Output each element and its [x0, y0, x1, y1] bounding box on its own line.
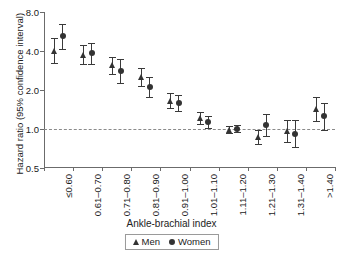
x-category-label: 1.01–1.10 — [208, 174, 219, 216]
confidence-interval-cap — [197, 124, 204, 125]
x-category-label: 0.61–0.70 — [92, 174, 103, 216]
marker-triangle — [138, 74, 144, 80]
confidence-interval-cap — [292, 147, 299, 148]
confidence-interval-cap — [109, 74, 116, 75]
confidence-interval-cap — [138, 68, 145, 69]
x-category-label: 0.81–0.90 — [150, 174, 161, 216]
legend-item-men: Men — [132, 236, 159, 247]
confidence-interval-cap — [292, 120, 299, 121]
confidence-interval-cap — [80, 64, 87, 65]
plot-area: 0.51.02.04.08.0 ≤0.600.61–0.700.71–0.800… — [44, 12, 335, 168]
confidence-interval-cap — [313, 97, 320, 98]
confidence-interval-cap — [88, 43, 95, 44]
y-tick — [40, 12, 44, 13]
confidence-interval-cap — [255, 130, 262, 131]
x-axis-label: Ankle-brachial index — [0, 218, 343, 229]
x-tick — [160, 167, 161, 171]
confidence-interval-cap — [197, 112, 204, 113]
y-axis-line — [44, 12, 45, 168]
confidence-interval-cap — [321, 103, 328, 104]
confidence-interval-cap — [59, 49, 66, 50]
confidence-interval-cap — [146, 77, 153, 78]
confidence-interval-cap — [117, 59, 124, 60]
y-tick — [40, 51, 44, 52]
marker-circle — [292, 131, 298, 137]
marker-circle — [118, 68, 124, 74]
marker-triangle — [167, 98, 173, 104]
x-category-label: 0.71–0.80 — [121, 174, 132, 216]
marker-triangle — [109, 62, 115, 68]
confidence-interval-cap — [109, 57, 116, 58]
x-category-label: 1.11–1.20 — [237, 174, 248, 216]
confidence-interval-cap — [175, 95, 182, 96]
marker-triangle — [255, 134, 261, 140]
x-tick — [73, 167, 74, 171]
marker-circle — [205, 119, 211, 125]
confidence-interval-cap — [167, 93, 174, 94]
marker-triangle — [284, 128, 290, 134]
marker-circle — [234, 126, 240, 132]
y-tick-label: 8.0 — [26, 7, 39, 18]
confidence-interval-cap — [263, 114, 270, 115]
marker-triangle — [197, 115, 203, 121]
x-tick — [44, 167, 45, 171]
confidence-interval-cap — [205, 116, 212, 117]
confidence-interval-cap — [117, 83, 124, 84]
marker-triangle — [226, 127, 232, 133]
x-tick — [335, 167, 336, 171]
marker-circle — [89, 50, 95, 56]
confidence-interval-cap — [80, 45, 87, 46]
legend: Men Women — [124, 234, 218, 250]
marker-triangle — [51, 48, 57, 54]
y-tick-label: 1.0 — [26, 124, 39, 135]
confidence-interval-cap — [138, 86, 145, 87]
confidence-interval-cap — [59, 24, 66, 25]
x-tick — [306, 167, 307, 171]
y-tick — [40, 90, 44, 91]
legend-item-women: Women — [169, 236, 211, 247]
confidence-interval-cap — [284, 120, 291, 121]
marker-circle — [263, 122, 269, 128]
confidence-interval-cap — [284, 142, 291, 143]
confidence-interval-cap — [321, 130, 328, 131]
x-tick — [277, 167, 278, 171]
marker-circle — [176, 100, 182, 106]
marker-circle — [147, 84, 153, 90]
marker-triangle — [313, 106, 319, 112]
x-tick — [248, 167, 249, 171]
marker-triangle — [80, 52, 86, 58]
y-tick-label: 0.5 — [26, 163, 39, 174]
confidence-interval-cap — [205, 128, 212, 129]
legend-label-women: Women — [178, 236, 211, 247]
y-tick-label: 4.0 — [26, 46, 39, 57]
circle-marker-icon — [169, 239, 175, 245]
x-category-label: 1.21–1.30 — [266, 174, 277, 216]
confidence-interval-cap — [146, 97, 153, 98]
confidence-interval-cap — [51, 38, 58, 39]
x-tick — [102, 167, 103, 171]
confidence-interval-cap — [167, 108, 174, 109]
confidence-interval-cap — [175, 111, 182, 112]
marker-circle — [321, 113, 327, 119]
confidence-interval-cap — [51, 63, 58, 64]
y-axis-label: Hazard ratio (95% confidence interval) — [14, 15, 25, 175]
confidence-interval-cap — [226, 133, 233, 134]
triangle-marker-icon — [132, 239, 138, 245]
x-tick — [131, 167, 132, 171]
x-category-label: >1.40 — [324, 174, 335, 198]
confidence-interval-cap — [255, 144, 262, 145]
confidence-interval-cap — [234, 132, 241, 133]
confidence-interval-cap — [313, 121, 320, 122]
confidence-interval-cap — [263, 136, 270, 137]
y-tick-label: 2.0 — [26, 85, 39, 96]
confidence-interval-cap — [88, 64, 95, 65]
x-category-label: 1.31–1.40 — [295, 174, 306, 216]
hazard-ratio-forest-chart: Hazard ratio (95% confidence interval) 0… — [0, 0, 343, 254]
x-category-label: 0.91–1.00 — [179, 174, 190, 216]
legend-label-men: Men — [141, 236, 159, 247]
x-tick — [219, 167, 220, 171]
reference-line — [44, 129, 335, 130]
x-category-label: ≤0.60 — [63, 174, 74, 198]
x-tick — [190, 167, 191, 171]
marker-circle — [60, 33, 66, 39]
